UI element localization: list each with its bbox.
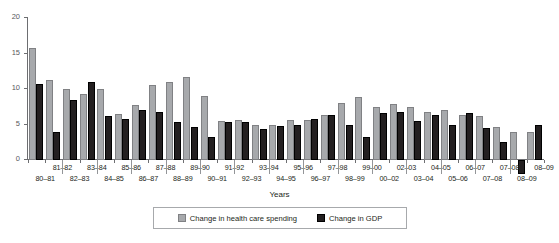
x-axis-tick-mark — [217, 160, 218, 163]
bar-gdp — [380, 113, 387, 160]
x-axis-title: Years — [0, 190, 559, 199]
x-axis-tick-mark — [28, 160, 29, 163]
bar-health-spending — [201, 96, 208, 160]
bar-group — [252, 14, 269, 160]
bar-group — [166, 14, 183, 160]
bar-health-spending — [390, 104, 397, 160]
chart-figure: 20151050 80–8181–8282–8383–8484–8585–868… — [0, 0, 559, 243]
bar-health-spending — [493, 127, 500, 160]
bar-health-spending — [304, 120, 311, 160]
bar-gdp — [449, 125, 456, 161]
legend-label-spending: Change in health care spending — [190, 214, 297, 223]
bar-gdp — [139, 110, 146, 160]
x-axis-tick-mark — [80, 160, 81, 163]
bar-group — [217, 14, 234, 160]
bar-group — [286, 14, 303, 160]
x-axis-label-bottom: 05–06 — [443, 174, 473, 183]
legend-item-gdp: Change in GDP — [317, 214, 382, 223]
x-axis-label-top: 08–09 — [529, 163, 559, 172]
legend-item-spending: Change in health care spending — [178, 214, 297, 223]
bar-health-spending — [407, 107, 414, 160]
x-axis-separator — [62, 160, 63, 174]
bar-group — [28, 14, 45, 160]
bar-health-spending — [218, 121, 225, 160]
x-axis-separator — [338, 160, 339, 174]
bar-gdp — [483, 128, 490, 160]
x-axis-separator — [97, 160, 98, 174]
bar-group — [200, 14, 217, 160]
x-axis-separator — [441, 160, 442, 174]
bar-health-spending — [338, 103, 345, 161]
bar-gdp — [328, 115, 335, 160]
x-axis-separator — [406, 160, 407, 174]
x-axis-labels: 80–8181–8282–8383–8484–8585–8686–8787–88… — [0, 160, 559, 190]
bar-health-spending — [63, 89, 70, 160]
x-axis-separator — [372, 160, 373, 174]
bar-group — [183, 14, 200, 160]
bar-group — [355, 14, 372, 160]
bar-gdp — [260, 129, 267, 160]
bar-gdp — [277, 126, 284, 160]
bar-gdp — [397, 112, 404, 160]
y-axis-tick-mark — [24, 88, 27, 89]
bar-group — [97, 14, 114, 160]
x-axis-tick-mark — [424, 160, 425, 163]
bar-group — [338, 14, 355, 160]
x-axis-tick-mark — [527, 160, 528, 163]
x-axis-label-bottom: 82–83 — [65, 174, 95, 183]
bar-gdp — [225, 122, 232, 160]
x-axis-tick-mark — [492, 160, 493, 163]
bar-gdp — [156, 112, 163, 160]
bar-group — [62, 14, 79, 160]
x-axis-tick-mark — [355, 160, 356, 163]
bar-health-spending — [235, 120, 242, 160]
x-axis-separator — [510, 160, 511, 174]
y-axis-tick-label: 10 — [4, 84, 20, 92]
x-axis-label-bottom: 98–99 — [340, 174, 370, 183]
bar-health-spending — [459, 115, 466, 160]
bar-group — [234, 14, 251, 160]
y-axis-tick-mark — [24, 17, 27, 18]
bar-group — [475, 14, 492, 160]
bar-group — [372, 14, 389, 160]
x-axis-label-bottom: 94–95 — [271, 174, 301, 183]
x-axis-label-bottom: 92–93 — [237, 174, 267, 183]
bar-health-spending — [510, 132, 517, 160]
bar-group — [303, 14, 320, 160]
bar-group — [458, 14, 475, 160]
x-axis-label-bottom: 03–04 — [409, 174, 439, 183]
bar-health-spending — [132, 105, 139, 160]
bar-health-spending — [321, 115, 328, 160]
x-axis-tick-mark — [252, 160, 253, 163]
x-axis-tick-mark — [148, 160, 149, 163]
bar-gdp — [414, 121, 421, 160]
bar-group — [320, 14, 337, 160]
x-axis-tick-mark — [183, 160, 184, 163]
bar-group — [424, 14, 441, 160]
x-axis-tick-mark — [286, 160, 287, 163]
bar-gdp — [36, 84, 43, 160]
bar-gdp — [294, 125, 301, 161]
bar-health-spending — [527, 132, 534, 160]
x-axis-tick-mark — [389, 160, 390, 163]
bar-health-spending — [97, 89, 104, 160]
x-axis-tick-mark — [45, 160, 46, 163]
x-axis-tick-mark — [114, 160, 115, 163]
y-axis-tick-mark — [24, 124, 27, 125]
bar-group — [406, 14, 423, 160]
bar-gdp — [363, 137, 370, 160]
bar-gdp — [174, 122, 181, 160]
bar-group — [510, 14, 527, 160]
bar-health-spending — [355, 97, 362, 160]
bar-group — [45, 14, 62, 160]
bar-health-spending — [252, 125, 259, 161]
x-axis-label-bottom: 00–02 — [374, 174, 404, 183]
bar-health-spending — [441, 110, 448, 160]
bar-group — [114, 14, 131, 160]
x-axis-label-bottom: 08–09 — [512, 174, 542, 183]
bar-health-spending — [149, 85, 156, 160]
bar-health-spending — [80, 94, 87, 160]
x-axis-separator — [234, 160, 235, 174]
y-axis-tick-mark — [24, 53, 27, 54]
x-axis-separator — [269, 160, 270, 174]
